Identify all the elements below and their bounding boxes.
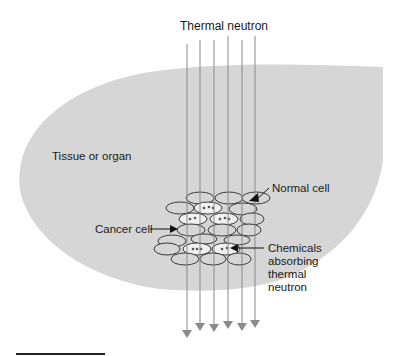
- normal-cell: [237, 224, 261, 236]
- chemicals-label: Chemicals absorbing thermal neutron: [268, 242, 322, 294]
- normal-cell-label: Normal cell: [272, 182, 330, 195]
- beam-arrowhead-icon: [250, 320, 260, 328]
- chemicals-label-line-3: thermal: [268, 268, 322, 281]
- cancer-cell-label: Cancer cell: [95, 223, 153, 236]
- normal-cell: [154, 243, 180, 255]
- beam-title-label: Thermal neutron: [180, 20, 268, 33]
- normal-cell: [227, 253, 251, 265]
- beam-arrowhead-icon: [223, 321, 233, 329]
- normal-cell: [191, 234, 217, 244]
- tissue-label: Tissue or organ: [52, 150, 131, 163]
- normal-cell: [240, 213, 264, 225]
- normal-cell: [171, 253, 199, 265]
- cancer-cell: [194, 202, 222, 214]
- chemicals-label-line-2: absorbing: [268, 255, 322, 268]
- normal-cell: [166, 202, 194, 214]
- beam-arrowhead-icon: [195, 323, 205, 331]
- beam-arrowhead-icon: [237, 323, 247, 331]
- chemicals-label-line-1: Chemicals: [268, 242, 322, 255]
- beam-arrowhead-icon: [182, 330, 192, 338]
- cancer-cell: [179, 213, 207, 225]
- beam-arrowhead-icon: [209, 324, 219, 332]
- normal-cell: [208, 224, 236, 236]
- normal-cell: [200, 253, 226, 265]
- diagram-canvas: [0, 0, 400, 356]
- chemicals-label-line-4: neutron: [268, 281, 322, 294]
- normal-cell: [215, 192, 243, 204]
